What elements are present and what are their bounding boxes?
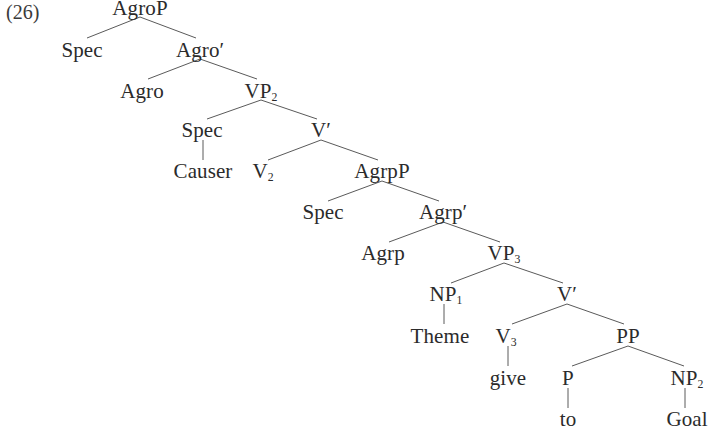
tree-branch-vp2-to-spec2 <box>207 100 261 119</box>
tree-node-text: V <box>557 282 572 306</box>
tree-node-text: V <box>311 118 326 142</box>
syntax-tree-figure: (26) AgroPSpecAgro′AgroVP2SpecV′CauserV2… <box>0 0 720 437</box>
tree-branch-agroP-to-spec1 <box>87 17 140 38</box>
tree-node-spec2: Spec <box>181 120 222 141</box>
tree-node-vBar1: V′ <box>311 120 331 141</box>
tree-node-causer: Causer <box>174 161 233 182</box>
tree-node-text: Spec <box>61 38 102 62</box>
example-number-label: (26) <box>6 2 39 22</box>
tree-node-agro: Agro <box>120 81 164 102</box>
tree-branch-agroBar-to-agro <box>148 59 200 79</box>
tree-node-text: VP <box>245 79 272 103</box>
tree-node-agrpBar: Agrp′ <box>419 202 467 223</box>
tree-branch-vBar2-to-pp <box>567 304 624 324</box>
tree-node-np2: NP2 <box>671 368 704 389</box>
tree-node-subscript: 2 <box>272 91 278 104</box>
tree-node-p: P <box>562 368 574 389</box>
tree-node-vp3: VP3 <box>488 243 521 264</box>
tree-branch-lines <box>0 0 720 437</box>
tree-node-prime-mark: ′ <box>572 282 577 306</box>
tree-node-subscript: 3 <box>515 253 521 266</box>
tree-node-subscript: 1 <box>457 294 463 307</box>
tree-node-text: PP <box>616 324 640 348</box>
tree-branch-vp3-to-np1 <box>451 263 504 283</box>
tree-node-v2: V2 <box>252 161 273 182</box>
tree-node-prime-mark: ′ <box>462 200 467 224</box>
tree-node-prime-mark: ′ <box>219 38 224 62</box>
tree-branch-vp3-to-vBar2 <box>504 263 563 283</box>
tree-node-text: Spec <box>181 118 222 142</box>
tree-branch-vp2-to-vBar1 <box>261 100 317 119</box>
tree-node-pp: PP <box>616 326 640 347</box>
tree-branch-agrpBar-to-agrp <box>389 222 443 242</box>
tree-node-agrpP: AgrpP <box>354 161 409 182</box>
tree-node-text: AgroP <box>112 0 167 20</box>
tree-node-text: Agro <box>120 79 164 103</box>
tree-node-theme: Theme <box>411 326 470 347</box>
tree-node-vBar2: V′ <box>557 284 577 305</box>
tree-branch-vBar1-to-v2 <box>268 140 321 160</box>
tree-node-v3: V3 <box>495 326 516 347</box>
tree-node-text: Theme <box>411 324 470 348</box>
tree-branch-pp-to-np2 <box>628 346 684 366</box>
tree-node-text: Agrp <box>361 241 405 265</box>
tree-branch-agroBar-to-vp2 <box>200 59 257 79</box>
tree-branch-vBar1-to-agrpP <box>321 140 378 160</box>
tree-branch-agroP-to-agroBar <box>140 17 196 38</box>
tree-node-text: Causer <box>174 159 233 183</box>
tree-node-np1: NP1 <box>430 284 463 305</box>
tree-node-text: V <box>252 159 267 183</box>
tree-node-subscript: 2 <box>698 378 704 391</box>
tree-node-text: Spec <box>302 200 343 224</box>
tree-branch-agrpBar-to-vp3 <box>443 222 500 242</box>
tree-branch-pp-to-p <box>572 346 628 366</box>
tree-node-text: Agrp <box>419 200 463 224</box>
tree-node-text: V <box>495 324 510 348</box>
tree-node-text: give <box>490 366 527 390</box>
tree-node-text: AgrpP <box>354 159 409 183</box>
tree-node-spec3: Spec <box>302 202 343 223</box>
tree-node-agrp: Agrp <box>361 243 405 264</box>
tree-node-text: VP <box>488 241 515 265</box>
tree-node-text: Goal <box>666 407 707 431</box>
tree-node-text: NP <box>671 366 698 390</box>
tree-node-subscript: 3 <box>511 336 517 349</box>
tree-node-agroBar: Agro′ <box>176 40 224 61</box>
tree-node-agroP: AgroP <box>112 0 167 19</box>
tree-branch-agrpP-to-spec3 <box>328 181 382 201</box>
tree-node-vp2: VP2 <box>245 81 278 102</box>
tree-node-subscript: 2 <box>268 171 274 184</box>
tree-node-text: Agro <box>176 38 220 62</box>
tree-branch-vBar2-to-v3 <box>512 304 567 324</box>
tree-node-give: give <box>490 368 527 389</box>
tree-node-goal: Goal <box>666 409 707 430</box>
tree-node-text: P <box>562 366 574 390</box>
tree-branch-agrpP-to-agrpBar <box>382 181 439 201</box>
tree-node-text: NP <box>430 282 457 306</box>
tree-node-prime-mark: ′ <box>326 118 331 142</box>
tree-node-to: to <box>560 409 577 430</box>
tree-node-text: to <box>560 407 577 431</box>
tree-node-spec1: Spec <box>61 40 102 61</box>
